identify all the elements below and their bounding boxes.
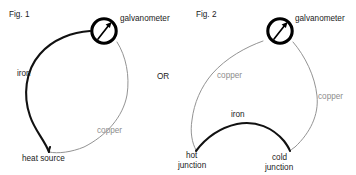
fig2-galvanometer-label: galvanometer <box>295 14 345 23</box>
fig1-heat-source-tip <box>49 147 50 152</box>
fig2-hot-junction-label-line2: junction <box>177 161 207 170</box>
fig1-heat-source-label: heat source <box>22 154 65 163</box>
fig2-hot-junction-label-line1: hot <box>186 151 198 160</box>
fig2-galvanometer[interactable] <box>268 19 292 43</box>
fig1-galvanometer-label: galvanometer <box>120 14 170 23</box>
thermocouple-diagram: Fig. 1 galvanometer iron copper heat sou… <box>0 0 356 175</box>
fig1-copper-label: copper <box>97 126 122 135</box>
fig2-iron-label: iron <box>231 110 245 119</box>
fig2-iron-wire <box>196 123 290 151</box>
fig2-cold-junction-label-line1: cold <box>272 153 287 162</box>
figure-2-caption: Fig. 2 <box>196 10 217 19</box>
or-separator-label: OR <box>157 72 169 81</box>
fig2-copper-label-left: copper <box>217 71 242 80</box>
figure-1-caption: Fig. 1 <box>9 10 30 19</box>
fig2-cold-junction-label-line2: junction <box>264 163 294 172</box>
fig1-galvanometer[interactable] <box>92 19 116 43</box>
fig1-copper-wire <box>49 42 128 153</box>
diagram-page: Fig. 1 galvanometer iron copper heat sou… <box>0 0 356 175</box>
fig2-copper-wire-right <box>290 42 317 151</box>
fig1-iron-wire <box>26 31 90 152</box>
figure-1-group: Fig. 1 galvanometer iron copper heat sou… <box>9 10 170 163</box>
figure-2-group: Fig. 2 galvanometer copper copper iron h… <box>177 10 345 172</box>
fig2-copper-wire-left <box>191 41 263 150</box>
fig2-copper-label-right: copper <box>318 92 343 101</box>
fig1-iron-label: iron <box>17 69 31 78</box>
